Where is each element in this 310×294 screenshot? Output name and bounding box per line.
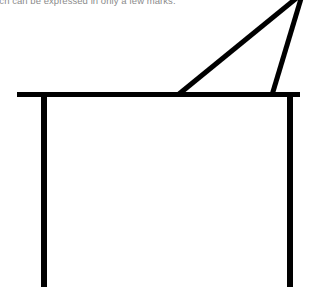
line-drawing xyxy=(0,0,310,294)
screenshot-canvas: uch can be expressed in only a few marks… xyxy=(0,0,310,294)
